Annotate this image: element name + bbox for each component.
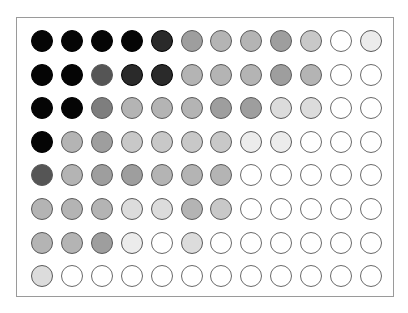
grid-circle <box>121 64 143 86</box>
grid-circle <box>300 164 322 186</box>
grid-circle <box>121 164 143 186</box>
grid-circle <box>181 64 203 86</box>
grid-circle <box>210 30 232 52</box>
grid-circle <box>31 131 53 153</box>
grid-circle <box>210 232 232 254</box>
grid-circle <box>360 164 382 186</box>
grid-circle <box>151 64 173 86</box>
grid-circle <box>210 97 232 119</box>
grid-circle <box>31 198 53 220</box>
grid-circle <box>240 64 262 86</box>
grid-circle <box>121 30 143 52</box>
grid-circle <box>151 30 173 52</box>
grid-circle <box>181 131 203 153</box>
grid-circle <box>61 232 83 254</box>
grid-circle <box>91 131 113 153</box>
grid-circle <box>240 232 262 254</box>
grid-circle <box>91 64 113 86</box>
grid-circle <box>210 64 232 86</box>
grid-circle <box>151 232 173 254</box>
grid-circle <box>330 164 352 186</box>
grid-circle <box>300 232 322 254</box>
grid-circle <box>151 164 173 186</box>
grid-circle <box>270 265 292 287</box>
grid-circle <box>151 198 173 220</box>
grid-circle <box>181 97 203 119</box>
grid-circle <box>270 30 292 52</box>
grid-circle <box>210 198 232 220</box>
grid-circle <box>31 265 53 287</box>
grid-circle <box>360 30 382 52</box>
grid-circle <box>300 30 322 52</box>
grid-circle <box>181 30 203 52</box>
grid-circle <box>360 232 382 254</box>
grid-circle <box>300 198 322 220</box>
grid-circle <box>61 198 83 220</box>
grid-circle <box>240 198 262 220</box>
grid-circle <box>61 30 83 52</box>
grid-circle <box>91 30 113 52</box>
grid-circle <box>210 265 232 287</box>
grid-circle <box>330 232 352 254</box>
grid-circle <box>121 97 143 119</box>
grid-circle <box>330 198 352 220</box>
grid-circle <box>300 64 322 86</box>
grid-circle <box>61 131 83 153</box>
grid-circle <box>181 265 203 287</box>
grid-circle <box>91 164 113 186</box>
grid-circle <box>181 198 203 220</box>
grid-circle <box>210 131 232 153</box>
grid-circle <box>91 97 113 119</box>
grid-circle <box>330 97 352 119</box>
grid-circle <box>270 131 292 153</box>
grid-circle <box>31 30 53 52</box>
grid-circle <box>360 198 382 220</box>
grid-circle <box>151 97 173 119</box>
grid-circle <box>360 97 382 119</box>
grid-circle <box>240 164 262 186</box>
grid-circle <box>91 232 113 254</box>
grid-circle <box>270 198 292 220</box>
grid-circle <box>270 97 292 119</box>
grid-circle <box>270 64 292 86</box>
grid-circle <box>240 131 262 153</box>
grid-circle <box>270 232 292 254</box>
grid-circle <box>121 265 143 287</box>
grid-circle <box>61 97 83 119</box>
grid-circle <box>330 64 352 86</box>
grid-circle <box>151 265 173 287</box>
grid-circle <box>91 198 113 220</box>
grid-circle <box>360 131 382 153</box>
grid-circle <box>360 265 382 287</box>
grid-circle <box>210 164 232 186</box>
grid-circle <box>61 265 83 287</box>
grid-circle <box>240 30 262 52</box>
grid-circle <box>270 164 292 186</box>
grid-circle <box>300 265 322 287</box>
grid-circle <box>330 131 352 153</box>
grid-circle <box>181 164 203 186</box>
grid-circle <box>330 30 352 52</box>
grid-circle <box>121 131 143 153</box>
grid-circle <box>31 232 53 254</box>
grid-circle <box>181 232 203 254</box>
circle-grid <box>17 18 393 296</box>
grid-circle <box>240 265 262 287</box>
grid-circle <box>91 265 113 287</box>
grid-circle <box>300 131 322 153</box>
grid-circle <box>240 97 262 119</box>
grid-circle <box>360 64 382 86</box>
grid-circle <box>31 97 53 119</box>
grid-circle <box>330 265 352 287</box>
grid-circle <box>151 131 173 153</box>
grid-circle <box>121 198 143 220</box>
plate-frame <box>16 17 394 297</box>
grid-circle <box>61 64 83 86</box>
grid-circle <box>31 64 53 86</box>
grid-circle <box>31 164 53 186</box>
grid-circle <box>61 164 83 186</box>
grid-circle <box>121 232 143 254</box>
grid-circle <box>300 97 322 119</box>
